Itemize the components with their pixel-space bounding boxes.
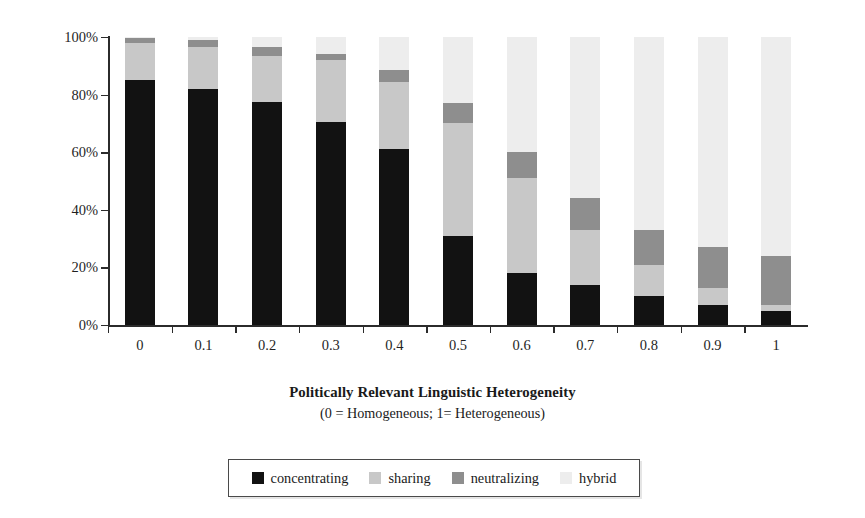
stacked-bar[interactable]: [761, 37, 791, 325]
legend-swatch-icon: [560, 472, 572, 484]
x-axis-subtitle: (0 = Homogeneous; 1= Heterogeneous): [0, 403, 865, 423]
x-tick-mark: [108, 325, 109, 333]
bar-segment-hybrid: [443, 37, 473, 103]
bar-segment-concentrating: [698, 305, 728, 325]
y-tick-label: 20%: [71, 259, 98, 276]
x-axis-caption: Politically Relevant Linguistic Heteroge…: [0, 383, 865, 423]
x-tick-mark: [744, 325, 745, 333]
bar-segment-sharing: [125, 43, 155, 80]
x-tick-label: 0.5: [449, 337, 467, 354]
bar-segment-neutralizing: [570, 198, 600, 230]
chart-legend: concentratingsharingneutralizinghybrid: [228, 459, 640, 497]
bar-segment-concentrating: [634, 296, 664, 325]
bar-segment-hybrid: [125, 37, 155, 38]
legend-swatch-icon: [452, 472, 464, 484]
bar-segment-hybrid: [379, 37, 409, 70]
stacked-bar[interactable]: [125, 37, 155, 325]
legend-label: sharing: [388, 470, 430, 487]
x-tick-mark: [617, 325, 618, 333]
stacked-bar[interactable]: [188, 37, 218, 325]
bar-segment-concentrating: [379, 149, 409, 325]
legend-label: neutralizing: [471, 470, 539, 487]
bar-segment-concentrating: [125, 80, 155, 325]
bar-segment-neutralizing: [379, 70, 409, 82]
plot-area: 0%20%40%60%80%100% 00.10.20.30.40.50.60.…: [108, 37, 808, 325]
bar-segment-concentrating: [570, 285, 600, 325]
x-tick-mark: [363, 325, 364, 333]
x-tick-mark: [553, 325, 554, 333]
bar-segment-hybrid: [507, 37, 537, 152]
bar-segment-concentrating: [761, 311, 791, 325]
stacked-bar[interactable]: [443, 37, 473, 325]
x-tick-label: 0.8: [640, 337, 658, 354]
bar-segment-neutralizing: [188, 40, 218, 47]
x-tick-mark: [681, 325, 682, 333]
legend-label: hybrid: [579, 470, 616, 487]
bar-segment-concentrating: [443, 236, 473, 325]
x-tick-label: 1: [773, 337, 780, 354]
y-tick-mark: [101, 152, 108, 153]
x-tick-label: 0.4: [385, 337, 403, 354]
bar-segment-sharing: [188, 47, 218, 89]
y-tick-label: 100%: [64, 29, 98, 46]
y-tick-mark: [101, 210, 108, 211]
stacked-bar[interactable]: [252, 37, 282, 325]
stacked-bar[interactable]: [570, 37, 600, 325]
bar-segment-neutralizing: [125, 38, 155, 42]
legend-item[interactable]: sharing: [369, 470, 430, 487]
x-tick-mark: [235, 325, 236, 333]
stacked-bar[interactable]: [316, 37, 346, 325]
bar-segment-sharing: [316, 60, 346, 122]
chart-figure: Probability 0%20%40%60%80%100% 00.10.20.…: [0, 0, 865, 518]
x-tick-label: 0.7: [576, 337, 594, 354]
bar-segment-neutralizing: [507, 152, 537, 178]
bar-segment-sharing: [507, 178, 537, 273]
legend-item[interactable]: hybrid: [560, 470, 616, 487]
y-tick-mark: [101, 325, 108, 326]
x-tick-label: 0.9: [703, 337, 721, 354]
bar-segment-neutralizing: [634, 230, 664, 265]
stacked-bar[interactable]: [634, 37, 664, 325]
bar-segment-sharing: [252, 56, 282, 102]
y-tick-label: 40%: [71, 201, 98, 218]
y-tick-mark: [101, 37, 108, 38]
y-tick-mark: [101, 267, 108, 268]
stacked-bar[interactable]: [698, 37, 728, 325]
y-tick-label: 80%: [71, 86, 98, 103]
x-tick-label: 0.1: [194, 337, 212, 354]
bar-segment-neutralizing: [252, 47, 282, 56]
bar-segment-concentrating: [507, 273, 537, 325]
bar-segment-concentrating: [188, 89, 218, 325]
bar-segment-sharing: [443, 123, 473, 235]
bar-segment-sharing: [570, 230, 600, 285]
legend-label: concentrating: [271, 470, 349, 487]
bar-segment-hybrid: [698, 37, 728, 247]
x-tick-label: 0.3: [322, 337, 340, 354]
bar-segment-neutralizing: [316, 54, 346, 60]
y-tick-label: 0%: [79, 317, 98, 334]
x-tick-mark: [299, 325, 300, 333]
y-axis-line: [108, 36, 110, 326]
bar-segment-sharing: [634, 265, 664, 297]
x-tick-mark: [426, 325, 427, 333]
legend-item[interactable]: neutralizing: [452, 470, 539, 487]
legend-swatch-icon: [252, 472, 264, 484]
x-tick-label: 0.2: [258, 337, 276, 354]
bar-segment-concentrating: [252, 102, 282, 325]
legend-swatch-icon: [369, 472, 381, 484]
legend-item[interactable]: concentrating: [252, 470, 349, 487]
y-tick-label: 60%: [71, 144, 98, 161]
x-tick-label: 0: [136, 337, 143, 354]
bar-segment-hybrid: [634, 37, 664, 230]
stacked-bar[interactable]: [507, 37, 537, 325]
bar-segment-sharing: [379, 82, 409, 150]
x-axis-title: Politically Relevant Linguistic Heteroge…: [0, 383, 865, 402]
bar-segment-concentrating: [316, 122, 346, 325]
x-tick-mark: [172, 325, 173, 333]
bar-segment-sharing: [761, 305, 791, 311]
x-tick-label: 0.6: [513, 337, 531, 354]
stacked-bar[interactable]: [379, 37, 409, 325]
bar-segment-neutralizing: [443, 103, 473, 123]
bar-segment-hybrid: [570, 37, 600, 198]
bar-segment-sharing: [698, 288, 728, 305]
